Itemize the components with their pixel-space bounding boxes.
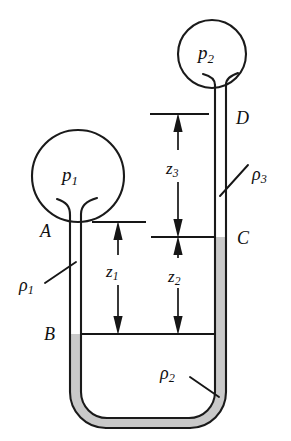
fluid-region — [71, 237, 226, 428]
density-label-2: ρ2 — [160, 364, 175, 385]
density-label-1: ρ1 — [19, 276, 34, 297]
dimension-label-z2: z2 — [168, 268, 180, 288]
z2-sub: 2 — [175, 275, 181, 288]
glass-tubing — [32, 20, 246, 428]
left-bulb-pressure-base: p — [62, 164, 72, 185]
right-neck-fillet-left — [203, 74, 215, 85]
manometer-figure: p1 p2 A B C D ρ1 ρ2 ρ3 z1 z2 z3 — [0, 0, 291, 441]
left-bulb-pressure-label: p1 — [62, 165, 78, 188]
point-label-b: B — [44, 325, 55, 343]
left-bulb-outline — [32, 130, 124, 222]
density-2-sub: 2 — [169, 371, 175, 385]
density-label-3: ρ3 — [252, 165, 267, 186]
z1-sub: 1 — [113, 270, 119, 283]
density-2-base: ρ — [160, 363, 169, 383]
z1-up-arrowhead — [113, 221, 122, 240]
z2-down-arrowhead — [173, 316, 182, 335]
left-bulb-pressure-sub: 1 — [72, 173, 78, 188]
density-1-leader — [45, 262, 76, 283]
level-lines — [80, 114, 216, 334]
dimension-label-z3: z3 — [166, 160, 178, 180]
z3-base: z — [166, 159, 173, 178]
left-neck-fillet-inner — [81, 198, 97, 214]
density-3-sub: 3 — [261, 172, 267, 186]
right-bulb-pressure-base: p — [198, 42, 208, 63]
density-1-sub: 1 — [28, 283, 34, 297]
bottom-bend-fluid — [106, 418, 191, 428]
z2-up-arrowhead — [173, 236, 182, 255]
density-1-base: ρ — [19, 275, 28, 295]
left-tube-inner-wall — [81, 214, 107, 418]
right-bulb-pressure-label: p2 — [198, 43, 214, 66]
z3-up-arrowhead — [173, 113, 182, 132]
right-tube-fluid — [190, 237, 226, 428]
z3-down-arrowhead — [173, 219, 182, 238]
z1-down-arrowhead — [113, 316, 122, 335]
right-bulb-pressure-sub: 2 — [208, 51, 214, 66]
right-tube-inner-wall — [189, 85, 215, 418]
density-3-base: ρ — [252, 164, 261, 184]
density-3-leader — [220, 165, 248, 196]
point-label-d: D — [236, 109, 249, 127]
point-label-a: A — [40, 222, 51, 240]
z1-base: z — [106, 262, 113, 281]
z3-sub: 3 — [173, 167, 179, 180]
z2-base: z — [168, 267, 175, 286]
point-label-c: C — [237, 229, 249, 247]
left-neck-fillet-outer — [57, 199, 70, 215]
dimension-label-z1: z1 — [106, 263, 118, 283]
